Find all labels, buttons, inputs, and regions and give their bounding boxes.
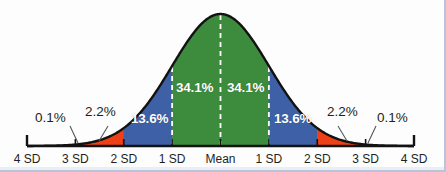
- label-0-1-percent-left: 0.1%: [35, 110, 66, 125]
- x-axis-label: 4 SD: [14, 152, 41, 166]
- x-axis-label: 3 SD: [62, 152, 89, 166]
- normal-distribution-chart: [0, 0, 446, 172]
- label-34-1-percent-left: 34.1%: [176, 80, 213, 95]
- label-2-2-percent-left: 2.2%: [85, 104, 116, 119]
- label-0-1-percent-right: 0.1%: [377, 110, 408, 125]
- label-34-1-percent-right: 34.1%: [227, 80, 264, 95]
- label-13-6-percent-left: 13.6%: [131, 111, 168, 126]
- label-13-6-percent-right: 13.6%: [274, 111, 311, 126]
- x-axis-label: 3 SD: [352, 152, 379, 166]
- x-axis-label: 1 SD: [159, 152, 186, 166]
- x-axis-label: 2 SD: [304, 152, 331, 166]
- bell-curve-figure: 13.6% 34.1% 34.1% 13.6% 0.1% 2.2% 2.2% 0…: [0, 0, 446, 172]
- x-axis-label: Mean: [205, 152, 235, 166]
- x-axis-label: 4 SD: [401, 152, 428, 166]
- x-axis-label: 2 SD: [110, 152, 137, 166]
- x-axis-label: 1 SD: [256, 152, 283, 166]
- label-2-2-percent-right: 2.2%: [327, 104, 358, 119]
